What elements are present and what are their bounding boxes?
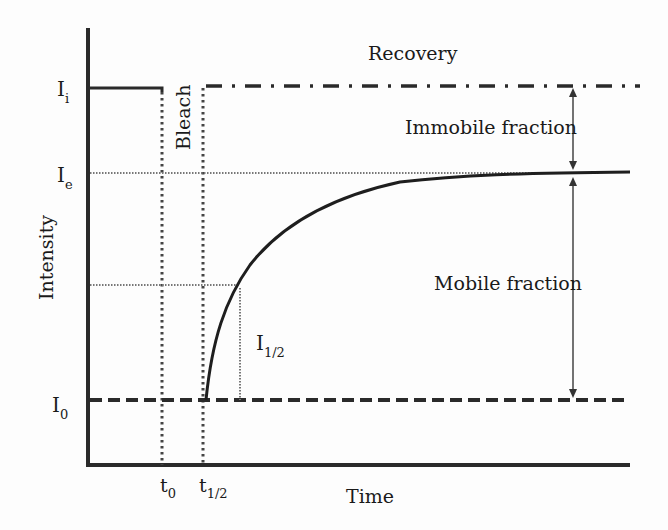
x-axis-label: Time	[346, 485, 394, 507]
y-axis-label: Intensity	[35, 215, 57, 300]
half-intensity-label: I1/2	[256, 331, 285, 360]
arrow-up-icon	[569, 177, 577, 186]
y-tick-I0: I0	[52, 393, 68, 422]
recovery-label: Recovery	[368, 42, 458, 64]
arrow-down-icon	[569, 161, 577, 170]
initial-intensity-line	[88, 88, 162, 92]
immobile-fraction-label: Immobile fraction	[405, 116, 577, 138]
bleach-label: Bleach	[172, 85, 194, 151]
y-tick-Ii: Ii	[57, 77, 69, 106]
y-tick-Ie: Ie	[57, 163, 73, 192]
x-tick-t-half: t1/2	[199, 474, 228, 501]
mobile-fraction-label: Mobile fraction	[434, 272, 582, 294]
frap-diagram: Ii Ie I0 t0 t1/2 Intensity Time Bleach R…	[0, 0, 668, 530]
arrow-down-icon	[569, 389, 577, 398]
x-tick-t0: t0	[160, 474, 176, 501]
arrow-up-icon	[569, 88, 577, 97]
